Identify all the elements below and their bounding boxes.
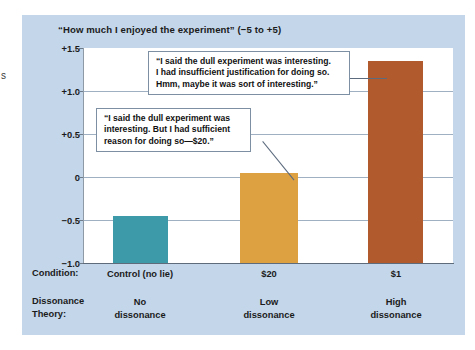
callout-low-line-1: “I said the dull experiment was: [104, 113, 244, 124]
callout-high-line-3: Hmm, maybe it was sort of interesting.”: [156, 79, 343, 90]
callout-high-line-1: “I said the dull experiment was interest…: [156, 56, 343, 67]
dissonance-value-20-line2: dissonance: [209, 309, 329, 322]
condition-value-20: $20: [209, 268, 329, 281]
condition-row-label: Condition:: [32, 268, 78, 278]
callout-low-line-2: interesting. But I had sufficient: [104, 124, 244, 135]
dissonance-value-20-line1: Low: [209, 296, 329, 309]
dissonance-value-control-line2: dissonance: [80, 309, 200, 322]
y-tick-label-4: 0: [40, 172, 80, 183]
dissonance-value-1-line1: High: [336, 296, 456, 309]
y-tick-label-1: +1.5: [40, 43, 80, 54]
dissonance-value-1-line2: dissonance: [336, 309, 456, 322]
y-tick-label-6: −1.0: [40, 258, 80, 269]
condition-value-1: $1: [336, 268, 456, 281]
condition-value-control: Control (no lie): [80, 268, 200, 281]
chart-title: “How much I enjoyed the experiment” (−5 …: [58, 24, 281, 35]
x-axis-line: [83, 263, 454, 264]
bar-1-dollar: [368, 61, 423, 263]
dissonance-row-label-line2: Theory:: [32, 309, 66, 319]
y-axis-line: [83, 48, 84, 264]
bar-20-dollars: [240, 173, 298, 263]
callout-low-line-3: reason for doing so—$20.”: [104, 136, 244, 147]
chart-figure: s “How much I enjoyed the experiment” (−…: [0, 0, 475, 350]
y-tick-label-3: +0.5: [40, 129, 80, 140]
dissonance-row-label-line1: Dissonance: [32, 296, 84, 306]
callout-low-dissonance: “I said the dull experiment was interest…: [96, 108, 251, 152]
y-tick-label-5: −0.5: [40, 215, 80, 226]
edge-text-fragment: s: [1, 70, 10, 81]
y-tick-label-2: +1.0: [40, 86, 80, 97]
callout-high-dissonance: “I said the dull experiment was interest…: [148, 51, 350, 95]
callout-high-line-2: I had insufficient justification for doi…: [156, 67, 343, 78]
dissonance-value-control-line1: No: [80, 296, 200, 309]
callout-leader-line-high: [350, 78, 387, 79]
bar-control-no-lie: [113, 216, 168, 263]
